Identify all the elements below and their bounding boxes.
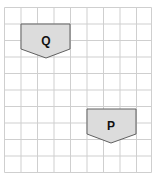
shape-label-p: P — [107, 119, 115, 133]
shape-label-q: Q — [41, 34, 50, 48]
grid-diagram: Q P — [0, 0, 153, 178]
shape-q: Q — [21, 24, 70, 58]
shape-p: P — [87, 109, 136, 143]
